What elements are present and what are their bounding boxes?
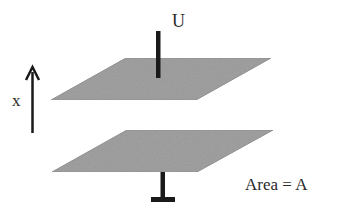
x-axis-label: x [12,91,21,110]
capacitor-diagram: U x Area = A [0,0,340,210]
voltage-label: U [172,11,185,31]
bottom-plate [52,130,273,172]
area-label: Area = A [245,175,308,194]
top-terminal-wire [156,31,161,78]
x-direction-arrow-icon [26,67,39,133]
top-plate [51,58,271,100]
ground-terminal-icon [151,172,175,202]
